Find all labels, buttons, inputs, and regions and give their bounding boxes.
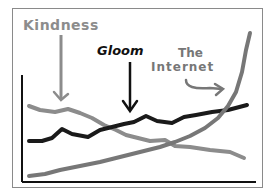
line-chart: Kindness Gloom The Internet [0, 0, 280, 195]
kindness-label: Kindness [23, 17, 99, 33]
internet-label-line2: Internet [151, 60, 214, 74]
internet-label-line1: The [178, 46, 203, 60]
gloom-label: Gloom [97, 43, 144, 58]
